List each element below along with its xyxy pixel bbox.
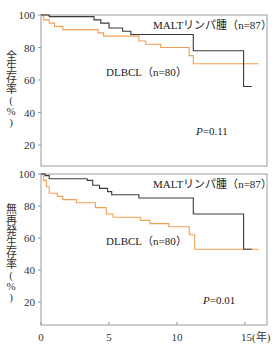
top-malt-legend: MALTリンパ腫（n=87）	[153, 18, 272, 31]
y-tick-label: 40	[24, 107, 36, 119]
bottom-y-ticks: 20406080100	[19, 168, 42, 308]
y-tick-label: 100	[19, 9, 36, 21]
y-tick-label: 20	[24, 296, 36, 308]
p-number: =0.01	[210, 294, 235, 306]
bottom-panel-rfs: 20406080100 051015(年) 無再発生存率(%) MALTリンパ腫…	[6, 168, 272, 344]
top-dlbcl-legend: DLBCL（n=80）	[106, 66, 187, 78]
bottom-dlbcl-legend: DLBCL（n=80）	[106, 235, 187, 247]
p-number: =0.11	[203, 125, 228, 137]
y-tick-label: 60	[24, 74, 36, 86]
top-y-ticks: 20406080100	[19, 9, 42, 151]
top-y-axis-label: 全生存率(%)	[6, 49, 17, 129]
x-tick-label: 5	[106, 331, 112, 343]
y-tick-label: 80	[24, 200, 36, 212]
y-label-char: )	[9, 116, 13, 129]
y-label-char: )	[9, 291, 13, 304]
bottom-p-value: P=0.01	[202, 294, 235, 306]
km-figure: 20406080100 全生存率(%) MALTリンパ腫（n=87） DLBCL…	[0, 0, 278, 348]
y-tick-label: 20	[24, 139, 36, 151]
y-tick-label: 60	[24, 232, 36, 244]
top-p-value: P=0.11	[195, 125, 228, 137]
y-tick-label: 80	[24, 42, 36, 54]
top-panel-os: 20406080100 全生存率(%) MALTリンパ腫（n=87） DLBCL…	[6, 9, 272, 166]
bottom-malt-legend: MALTリンパ腫（n=87）	[153, 177, 272, 190]
x-tick-label: 0	[38, 331, 44, 343]
x-tick-label: 10	[172, 331, 184, 343]
y-tick-label: 100	[19, 168, 36, 180]
bottom-y-axis-label: 無再発生存率(%)	[6, 202, 17, 304]
x-tick-label: 15(年)	[241, 330, 271, 344]
top-plot-frame	[41, 15, 267, 166]
y-tick-label: 40	[24, 264, 36, 276]
